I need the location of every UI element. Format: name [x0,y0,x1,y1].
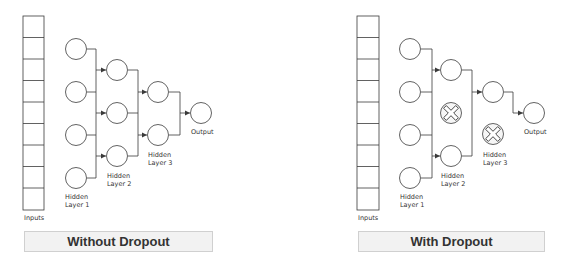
node-h2-1 [107,60,128,81]
node-h2-2 [107,103,128,124]
node-h1-2 [66,82,87,103]
hidden-layer-2-label: Hidden Layer 2 [107,172,131,188]
input-column [357,16,379,210]
input-column [23,16,44,210]
node-h1-3 [400,125,421,146]
node-h1-1 [66,39,87,60]
hidden-layer-1-label: Hidden Layer 1 [400,193,424,209]
diagram-without-dropout: Inputs Hidden Layer 1 Hidden Layer 2 Hid… [0,0,280,269]
node-h1-1 [400,39,421,60]
node-h2-3 [441,146,462,167]
node-output [524,103,545,124]
with-dropout-banner: With Dropout [358,231,545,252]
inputs-label: Inputs [358,214,378,222]
hidden-layer-3-label: Hidden Layer 3 [483,151,507,167]
nodes [66,39,212,189]
node-h3-1 [148,82,169,103]
node-h1-4 [66,168,87,189]
output-label: Output [524,128,547,136]
node-h2-1 [441,60,462,81]
without-dropout-banner: Without Dropout [24,231,213,252]
node-h1-3 [66,125,87,146]
network-diagram [280,0,561,269]
network-diagram [0,0,280,269]
node-h3-2 [148,125,169,146]
node-h2-3 [107,146,128,167]
diagram-with-dropout: Inputs Hidden Layer 1 Hidden Layer 2 Hid… [280,0,560,269]
inputs-label: Inputs [24,214,44,222]
hidden-layer-1-label: Hidden Layer 1 [65,193,89,209]
connections [421,49,523,178]
hidden-layer-2-label: Hidden Layer 2 [441,172,465,188]
output-label: Output [191,128,214,136]
node-h1-2 [400,82,421,103]
node-h1-4 [400,168,421,189]
connections [87,49,190,178]
node-h3-1 [483,82,504,103]
node-output [191,103,212,124]
hidden-layer-3-label: Hidden Layer 3 [148,151,172,167]
